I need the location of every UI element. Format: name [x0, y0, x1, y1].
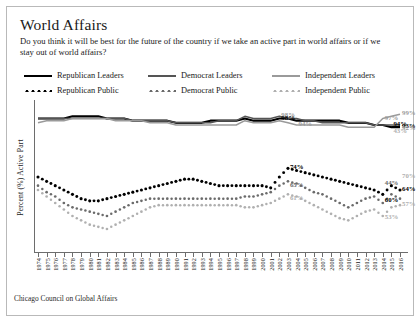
x-tick	[38, 252, 39, 257]
data-label-ann-74: 74%	[290, 163, 304, 170]
x-tick-label: 1975	[44, 258, 51, 271]
x-tick-label: 1980	[87, 258, 94, 271]
series-dots-republican-public	[36, 167, 401, 203]
x-tick	[124, 252, 125, 257]
legend-item-label: Republican Public	[57, 86, 119, 95]
x-tick-label: 1985	[130, 258, 137, 271]
chart-svg	[34, 100, 408, 252]
x-tick	[193, 252, 194, 257]
legend-item-republican-leaders[interactable]: Republican Leaders	[24, 71, 148, 80]
x-tick-label: 1982	[104, 258, 111, 271]
survey-question: Do you think it will be best for the fut…	[20, 36, 392, 59]
x-tick	[150, 252, 151, 257]
legend-item-label: Independent Public	[305, 86, 370, 95]
x-tick	[383, 252, 384, 257]
data-label-ann-64-end: 64%	[402, 185, 416, 192]
x-tick	[331, 252, 332, 257]
x-tick-label: 1996	[225, 258, 232, 271]
x-tick-label: 2003	[285, 258, 292, 271]
x-tick-label: 1976	[52, 258, 59, 271]
x-tick	[253, 252, 254, 257]
data-label-ann-99-end: 99%	[402, 109, 416, 116]
x-tick-label: 2000	[259, 258, 266, 271]
x-tick	[202, 252, 203, 257]
x-tick	[288, 252, 289, 257]
x-tick	[340, 252, 341, 257]
x-tick	[236, 252, 237, 257]
source-attribution: Chicago Council on Global Affairs	[14, 294, 117, 303]
x-tick	[262, 252, 263, 257]
solid-line-icon	[24, 71, 52, 80]
data-label-ann-94-gray: 94%	[299, 120, 313, 127]
plot-area: Percent (%) Active Part 98%98%94%97%99%9…	[12, 100, 408, 255]
legend-item-democrat-public[interactable]: Democrat Public	[148, 86, 272, 95]
data-label-ann-60-end: 60%	[385, 196, 399, 203]
x-tick	[374, 252, 375, 257]
x-tick-label: 2012	[363, 258, 370, 271]
page-title: World Affairs	[20, 16, 108, 34]
solid-line-icon	[148, 71, 176, 80]
x-tick	[228, 252, 229, 257]
data-label-ann-44: 44%	[385, 179, 399, 186]
x-tick-label: 1999	[250, 258, 257, 271]
x-tick-label: 1979	[78, 258, 85, 271]
x-tick-label: 1987	[147, 258, 154, 271]
x-tick	[47, 252, 48, 257]
x-tick-label: 2016	[397, 258, 404, 271]
x-tick	[322, 252, 323, 257]
legend-item-republican-public[interactable]: Republican Public	[24, 86, 148, 95]
legend-item-independent-public[interactable]: Independent Public	[272, 86, 396, 95]
x-tick-label: 2015	[388, 258, 395, 271]
x-tick	[176, 252, 177, 257]
x-tick-label: 1983	[113, 258, 120, 271]
x-tick	[400, 252, 401, 257]
x-tick	[81, 252, 82, 257]
data-label-ann-70-end: 70%	[402, 172, 416, 179]
chart-page: World Affairs Do you think it will be be…	[0, 0, 420, 322]
solid-line-icon	[272, 71, 300, 80]
x-axis-ticks	[34, 252, 408, 257]
legend-item-label: Democrat Public	[181, 86, 238, 95]
legend-item-independent-leaders[interactable]: Independent Leaders	[272, 71, 396, 80]
x-tick-label: 2010	[345, 258, 352, 271]
x-tick-label: 2009	[337, 258, 344, 271]
data-label-ann-53-end: 53%	[385, 213, 399, 220]
data-label-ann-43-end: 43%	[393, 127, 407, 134]
chart-legend: Republican LeadersDemocrat LeadersIndepe…	[24, 68, 396, 98]
x-tick-label: 2013	[371, 258, 378, 271]
x-tick	[219, 252, 220, 257]
x-tick-label: 2008	[328, 258, 335, 271]
x-tick	[305, 252, 306, 257]
x-tick	[185, 252, 186, 257]
x-tick-label: 1986	[138, 258, 145, 271]
x-tick-label: 2001	[268, 258, 275, 271]
x-tick-label: 1989	[164, 258, 171, 271]
legend-item-democrat-leaders[interactable]: Democrat Leaders	[148, 71, 272, 80]
x-tick-label: 2007	[319, 258, 326, 271]
x-tick-label: 2005	[302, 258, 309, 271]
x-tick	[141, 252, 142, 257]
series-dots-independent-public	[37, 189, 402, 231]
x-tick-label: 1984	[121, 258, 128, 271]
x-tick	[90, 252, 91, 257]
data-label-ann-98-black: 98%	[281, 114, 295, 121]
x-tick-label: 1977	[61, 258, 68, 271]
x-tick-label: 1974	[35, 258, 42, 271]
data-label-ann-57-end: 57%	[402, 200, 416, 207]
x-tick-label: 1992	[190, 258, 197, 271]
data-label-ann-65: 65%	[290, 181, 304, 188]
x-tick-label: 2011	[354, 258, 361, 271]
x-tick	[391, 252, 392, 257]
x-tick	[297, 252, 298, 257]
x-tick-label: 1995	[216, 258, 223, 271]
x-tick-label: 1990	[173, 258, 180, 271]
dotted-line-icon	[272, 86, 300, 95]
x-tick	[98, 252, 99, 257]
x-tick	[72, 252, 73, 257]
x-tick	[107, 252, 108, 257]
x-tick-label: 1988	[156, 258, 163, 271]
x-tick	[64, 252, 65, 257]
legend-item-label: Independent Leaders	[305, 71, 375, 80]
x-tick-label: 1991	[182, 258, 189, 271]
x-tick	[271, 252, 272, 257]
